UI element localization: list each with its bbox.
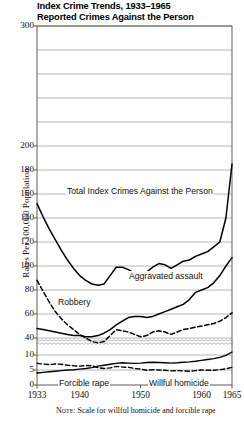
chart-root: Index Crime Trends, 1933–1965 Reported C…	[0, 0, 244, 425]
x-tick-1940: 1940	[67, 390, 93, 400]
x-tick-1965: 1965	[219, 390, 244, 400]
series-label-total: Total Index Crimes Against the Person	[66, 186, 214, 196]
y-tick-120: 120	[0, 237, 34, 246]
x-tick-1950: 1950	[128, 390, 154, 400]
y-tick-0: 0	[0, 380, 34, 389]
y-tick-140: 140	[0, 213, 34, 222]
y-tick-80: 80	[0, 285, 34, 294]
x-tick-1960: 1960	[189, 390, 215, 400]
series-label-aggravated-assault: Aggravated assault	[128, 271, 204, 281]
y-tick-160: 160	[0, 189, 34, 198]
series-label-willful-homicide: Willful homicide	[148, 378, 210, 388]
series-label-forcible-rape: Forcible rape	[58, 378, 110, 388]
y-tick-300: 300	[0, 21, 34, 30]
y-tick-40: 40	[0, 333, 34, 342]
y-tick-5: 5	[0, 365, 34, 374]
chart-note: Note: Scale for willful homicide and for…	[56, 406, 244, 415]
y-tick-180: 180	[0, 165, 34, 174]
y-tick-10: 10	[0, 350, 34, 359]
note-text: Scale for willful homicide and forcible …	[78, 406, 216, 415]
series-label-robbery: Robbery	[57, 297, 91, 307]
y-tick-200: 200	[0, 141, 34, 150]
y-axis-ticks: 4060801001201401601802003000510	[0, 0, 34, 425]
note-keyword: Note:	[56, 406, 76, 415]
x-tick-1933: 1933	[24, 390, 50, 400]
plot-area	[0, 0, 244, 425]
y-tick-60: 60	[0, 309, 34, 318]
y-tick-100: 100	[0, 261, 34, 270]
